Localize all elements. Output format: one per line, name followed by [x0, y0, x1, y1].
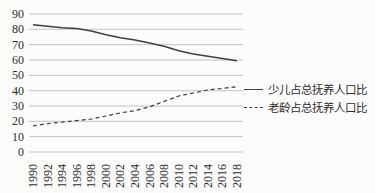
y-tick-label-50: 50	[12, 68, 24, 82]
x-tick-label-2000: 2000	[99, 164, 113, 188]
solid-line-sample-icon	[244, 89, 263, 90]
x-tick-label-2018: 2018	[230, 164, 244, 188]
y-tick-label-0: 0	[18, 145, 24, 159]
legend-entry-child: 少儿占总抚养人口比	[244, 80, 367, 98]
x-tick-label-2008: 2008	[157, 164, 171, 188]
x-tick-label-1998: 1998	[84, 164, 98, 188]
x-tick-label-2006: 2006	[143, 164, 157, 188]
x-tick-label-1996: 1996	[70, 164, 84, 188]
y-tick-label-10: 10	[12, 130, 24, 144]
x-tick-label-2002: 2002	[113, 164, 127, 188]
y-tick-label-30: 30	[12, 99, 24, 113]
x-tick-label-2004: 2004	[128, 164, 142, 188]
dashed-line-sample-icon	[244, 107, 263, 108]
legend-entry-elderly: 老龄占总抚养人口比	[244, 98, 367, 116]
x-tick-label-2016: 2016	[215, 164, 229, 188]
x-tick-label-1990: 1990	[26, 164, 40, 188]
dependency-ratio-figure: 0102030405060708090199019921994199619982…	[0, 0, 375, 193]
y-tick-label-70: 70	[12, 38, 24, 52]
y-tick-label-40: 40	[12, 84, 24, 98]
x-tick-label-2014: 2014	[201, 164, 215, 188]
x-tick-label-1992: 1992	[41, 164, 55, 188]
series-line-solid	[33, 25, 237, 61]
y-tick-label-20: 20	[12, 114, 24, 128]
legend: 少儿占总抚养人口比 老龄占总抚养人口比	[244, 80, 367, 116]
x-tick-label-1994: 1994	[55, 164, 69, 188]
x-tick-label-2012: 2012	[186, 164, 200, 188]
legend-label-child: 少儿占总抚养人口比	[268, 81, 367, 97]
x-tick-label-2010: 2010	[172, 164, 186, 188]
y-tick-label-90: 90	[12, 7, 24, 21]
y-tick-label-80: 80	[12, 22, 24, 36]
legend-label-elderly: 老龄占总抚养人口比	[268, 99, 367, 115]
y-tick-label-60: 60	[12, 53, 24, 67]
